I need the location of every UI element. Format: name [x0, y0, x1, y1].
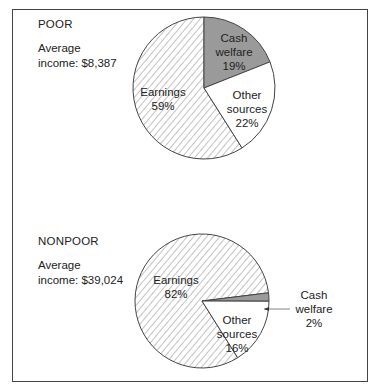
- poor-cash-label-3: 19%: [222, 60, 245, 72]
- nonpoor-cash-label-2: welfare: [294, 303, 332, 315]
- nonpoor-earnings-label-1: Earnings: [153, 274, 199, 286]
- nonpoor-other-label-3: 16%: [225, 342, 248, 354]
- poor-earnings-label-2: 59%: [151, 100, 174, 112]
- poor-cash-label-1: Cash: [221, 32, 248, 44]
- nonpoor-cash-label-3: 2%: [306, 317, 323, 329]
- nonpoor-earnings-label-2: 82%: [164, 288, 187, 300]
- poor-cash-label-2: welfare: [214, 46, 252, 58]
- nonpoor-cash-label-1: Cash: [301, 289, 328, 301]
- poor-other-label-1: Other: [233, 89, 262, 101]
- poor-other-label-3: 22%: [235, 117, 258, 129]
- nonpoor-pie: Cash welfare 2% Other sources 16% Earnin…: [135, 234, 333, 368]
- pie-charts: Cash welfare 19% Other sources 22% Earni…: [0, 0, 377, 391]
- nonpoor-other-label-2: sources: [217, 328, 258, 340]
- poor-earnings-label-1: Earnings: [140, 86, 186, 98]
- poor-pie: Cash welfare 19% Other sources 22% Earni…: [133, 17, 275, 159]
- poor-other-label-2: sources: [227, 103, 268, 115]
- nonpoor-other-label-1: Other: [223, 314, 252, 326]
